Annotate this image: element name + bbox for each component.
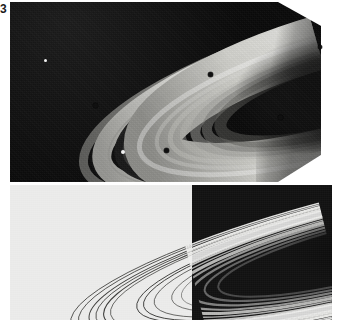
satellite-dot-6	[278, 115, 283, 120]
satellite-dot-4	[164, 148, 169, 153]
figure-page: 3	[0, 0, 341, 329]
positive-half	[192, 185, 332, 320]
ring-system-graphic	[10, 2, 332, 182]
satellite-dot-1	[44, 59, 47, 62]
satellite-dot-2	[93, 103, 98, 108]
saturn-rings-split-negative-positive	[10, 185, 332, 320]
satellite-dot-3	[121, 150, 125, 154]
saturn-rings-positive-photo	[10, 2, 332, 182]
satellite-dot-5	[208, 72, 213, 77]
satellite-dot-7	[318, 45, 322, 49]
figure-number: 3	[0, 2, 9, 17]
right-margin-mask	[321, 2, 332, 182]
